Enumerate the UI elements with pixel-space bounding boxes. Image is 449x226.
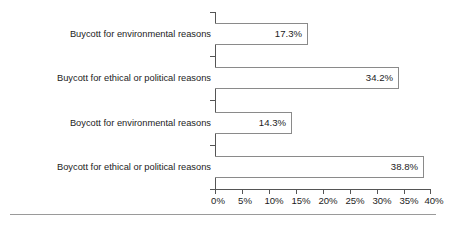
- category-label: Buycott for environmental reasons: [70, 23, 211, 45]
- bar: 34.2%: [215, 67, 399, 89]
- x-axis-tick: [323, 189, 324, 194]
- bar: 38.8%: [215, 156, 424, 178]
- bar-chart-figure: Buycott for environmental reasons 17.3% …: [0, 0, 449, 226]
- x-axis-tick: [242, 189, 243, 194]
- bar-value-label: 34.2%: [366, 68, 393, 88]
- bar: 14.3%: [215, 112, 292, 134]
- x-axis-tick: [215, 189, 216, 194]
- bottom-separator-rule: [10, 214, 436, 215]
- x-axis-tick: [404, 189, 405, 194]
- x-axis-tick: [296, 189, 297, 194]
- bar-value-label: 14.3%: [259, 113, 286, 133]
- bar-value-label: 38.8%: [391, 157, 418, 177]
- x-axis-tick-label: 10%: [264, 195, 283, 207]
- x-axis-tick-label: 25%: [345, 195, 364, 207]
- y-axis-tick: [210, 145, 215, 146]
- y-axis-tick: [210, 12, 215, 13]
- x-axis-tick: [269, 189, 270, 194]
- bar-value-label: 17.3%: [275, 24, 302, 44]
- bar: 17.3%: [215, 23, 308, 45]
- x-axis-tick: [350, 189, 351, 194]
- y-axis-tick: [210, 56, 215, 57]
- x-axis-tick: [377, 189, 378, 194]
- x-axis-tick-label: 30%: [372, 195, 391, 207]
- category-label: Boycott for environmental reasons: [70, 112, 211, 134]
- bar-row: Buycott for ethical or political reasons…: [0, 67, 449, 89]
- bar-row: Boycott for ethical or political reasons…: [0, 156, 449, 178]
- x-axis-tick-label: 35%: [399, 195, 418, 207]
- category-label: Boycott for ethical or political reasons: [57, 156, 211, 178]
- x-axis-tick-label: 15%: [291, 195, 310, 207]
- bar-row: Buycott for environmental reasons 17.3%: [0, 23, 449, 45]
- x-axis-tick-label: 5%: [238, 195, 252, 207]
- bar-row: Boycott for environmental reasons 14.3%: [0, 112, 449, 134]
- x-axis-tick-label: 20%: [318, 195, 337, 207]
- x-axis-tick-label: 40%: [424, 195, 443, 207]
- y-axis-tick: [210, 100, 215, 101]
- x-axis-tick: [430, 189, 431, 194]
- category-label: Buycott for ethical or political reasons: [57, 67, 211, 89]
- x-axis-tick-label: 0%: [211, 195, 225, 207]
